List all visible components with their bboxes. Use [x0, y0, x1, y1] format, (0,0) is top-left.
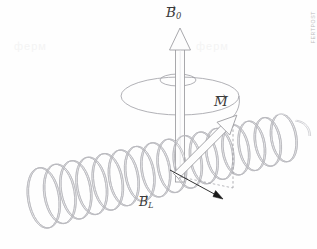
coil-front-windings	[23, 112, 301, 231]
bl-label: → BL	[139, 196, 153, 209]
b0-label-subscript: 0	[176, 11, 181, 21]
m-label: → M	[214, 95, 228, 109]
m-vector-arrow-mark: →	[214, 91, 228, 103]
bl-vector-arrow-mark: →	[139, 192, 148, 203]
figure-canvas: ферм ферм	[0, 0, 317, 249]
side-watermark-text: FERTPOST	[310, 11, 316, 43]
vector-diagram-graphic	[0, 0, 317, 249]
b0-label: → B0	[166, 6, 181, 20]
bl-label-subscript: L	[148, 201, 153, 210]
b0-vector-arrow-mark: →	[166, 2, 176, 14]
